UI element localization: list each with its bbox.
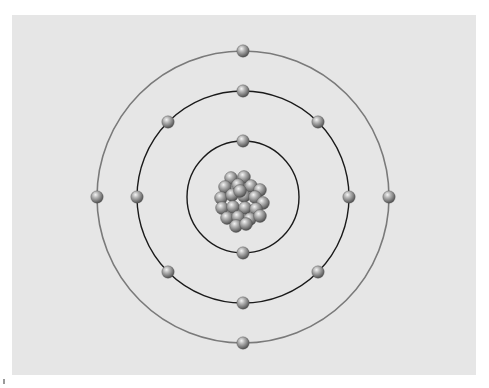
electron — [237, 85, 249, 97]
nucleon — [240, 218, 253, 231]
electron — [91, 191, 103, 203]
electron — [237, 337, 249, 349]
nucleus — [215, 171, 270, 233]
electron — [162, 266, 174, 278]
electron — [131, 191, 143, 203]
electron — [312, 116, 324, 128]
electron — [237, 247, 249, 259]
electron — [312, 266, 324, 278]
electron — [162, 116, 174, 128]
electron — [237, 45, 249, 57]
atom-diagram — [0, 0, 489, 388]
nucleon — [234, 185, 247, 198]
corner-artifact — [3, 379, 5, 384]
electron — [237, 297, 249, 309]
electron — [383, 191, 395, 203]
electron — [343, 191, 355, 203]
nucleon — [254, 210, 267, 223]
electron — [237, 135, 249, 147]
